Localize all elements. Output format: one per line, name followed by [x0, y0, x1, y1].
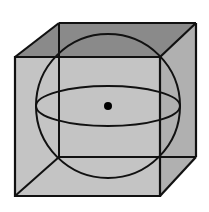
- sphere-in-cube-diagram: [0, 0, 209, 212]
- center-point: [104, 102, 112, 110]
